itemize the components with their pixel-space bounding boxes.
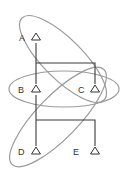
- group-ellipse-dc: [0, 55, 119, 179]
- node-e[interactable]: E: [73, 147, 100, 157]
- group-ellipse-bc: [9, 71, 119, 107]
- diagram-canvas: A B C D E: [0, 0, 129, 180]
- edge-a-bc: [36, 43, 95, 84]
- node-label-c: C: [78, 85, 85, 95]
- node-label-e: E: [73, 147, 79, 157]
- node-d[interactable]: D: [18, 147, 41, 157]
- node-b[interactable]: B: [18, 85, 41, 95]
- triangle-icon: [91, 85, 100, 92]
- group-ellipse-ac: [8, 4, 118, 114]
- node-c[interactable]: C: [78, 85, 100, 95]
- node-a[interactable]: A: [19, 33, 41, 43]
- triangle-icon: [32, 85, 41, 92]
- node-label-d: D: [18, 147, 25, 157]
- node-label-a: A: [19, 33, 25, 43]
- triangle-icon: [91, 147, 100, 154]
- triangle-icon: [32, 33, 41, 40]
- triangle-icon: [32, 147, 41, 154]
- diagram-svg: A B C D E: [0, 0, 129, 180]
- node-label-b: B: [18, 85, 24, 95]
